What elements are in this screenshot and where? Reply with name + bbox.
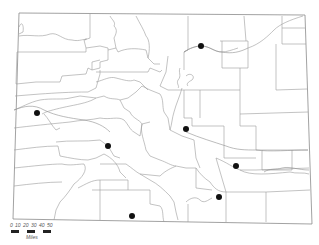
- county-boundaries: [14, 14, 310, 222]
- location-marker[interactable]: [129, 213, 135, 219]
- scale-tick-0: 0: [10, 222, 13, 228]
- location-marker[interactable]: [233, 163, 239, 169]
- scale-tick-40: 40: [39, 222, 45, 228]
- scale-tick-20: 20: [22, 222, 29, 228]
- scale-tick-10: 10: [15, 222, 21, 228]
- location-marker[interactable]: [34, 110, 40, 116]
- scale-tick-30: 30: [31, 222, 37, 228]
- county-map: 0 10 20 30 40 50 Miles: [0, 0, 319, 245]
- rivers: [14, 46, 309, 172]
- state-boundary: [13, 13, 312, 224]
- location-marker[interactable]: [216, 194, 222, 200]
- location-marker[interactable]: [198, 43, 204, 49]
- location-marker[interactable]: [183, 126, 189, 132]
- scale-segment: [11, 230, 19, 233]
- location-markers: [34, 43, 239, 219]
- scale-unit-label: Miles: [26, 234, 38, 240]
- scale-segment: [27, 230, 35, 233]
- scale-tick-50: 50: [47, 222, 53, 228]
- location-marker[interactable]: [105, 143, 111, 149]
- scale-bar: 0 10 20 30 40 50 Miles: [10, 222, 53, 240]
- scale-segment: [43, 230, 51, 233]
